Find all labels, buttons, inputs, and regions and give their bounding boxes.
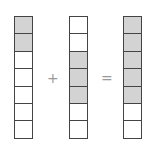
empty-cell: [123, 120, 142, 138]
plus-sign: +: [47, 71, 59, 85]
empty-cell: [14, 51, 33, 69]
shaded-cell: [69, 68, 88, 86]
shaded-cell: [123, 33, 142, 51]
empty-cell: [14, 103, 33, 121]
empty-cell: [69, 120, 88, 138]
shaded-cell: [123, 51, 142, 69]
shaded-cell: [123, 68, 142, 86]
fraction-bar-1: [14, 16, 33, 139]
shaded-cell: [14, 33, 33, 51]
shaded-cell: [69, 51, 88, 69]
shaded-cell: [123, 86, 142, 104]
empty-cell: [14, 120, 33, 138]
shaded-cell: [14, 16, 33, 34]
empty-cell: [69, 16, 88, 34]
empty-cell: [69, 33, 88, 51]
empty-cell: [123, 103, 142, 121]
empty-cell: [14, 86, 33, 104]
shaded-cell: [69, 86, 88, 104]
fraction-bar-2: [69, 16, 88, 139]
equals-sign: =: [101, 71, 113, 85]
empty-cell: [14, 68, 33, 86]
shaded-cell: [123, 16, 142, 34]
fraction-bar-3: [123, 16, 142, 139]
empty-cell: [69, 103, 88, 121]
